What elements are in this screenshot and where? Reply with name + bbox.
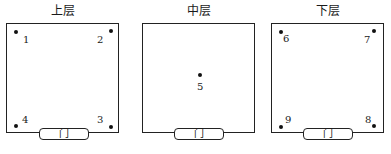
point-marker — [372, 29, 376, 33]
point-label: 8 — [365, 115, 371, 125]
point-label: 3 — [97, 115, 103, 125]
point-label: 1 — [23, 35, 29, 45]
point-label: 7 — [364, 35, 370, 45]
point-label: 6 — [283, 34, 289, 44]
panel-title: 上层 — [6, 4, 120, 18]
panel-title: 下层 — [271, 4, 385, 18]
panel-title: 中层 — [142, 4, 256, 18]
point-label: 2 — [97, 35, 103, 45]
door: 门 — [174, 128, 224, 140]
point-label: 4 — [22, 115, 28, 125]
point-marker — [198, 73, 202, 77]
point-label: 5 — [197, 82, 203, 92]
point-label: 9 — [285, 115, 291, 125]
door: 门 — [39, 128, 89, 140]
point-marker — [279, 125, 283, 129]
point-marker — [14, 30, 18, 34]
panel-lower: 下层 门 6 7 8 9 — [271, 0, 385, 154]
point-marker — [14, 124, 18, 128]
point-marker — [372, 124, 376, 128]
door: 门 — [303, 128, 353, 140]
point-marker — [109, 29, 113, 33]
panel-upper: 上层 门 1 2 3 4 — [6, 0, 120, 154]
room-outline — [142, 23, 255, 133]
point-marker — [109, 125, 113, 129]
panel-middle: 中层 门 5 — [142, 0, 256, 154]
